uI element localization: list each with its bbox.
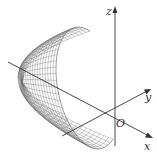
mesh-meridian bbox=[22, 82, 77, 136]
y-axis bbox=[62, 91, 147, 136]
z-axis-label: z bbox=[105, 5, 112, 18]
y-axis-label: y bbox=[144, 91, 152, 104]
z-axis-arrow-icon bbox=[113, 6, 118, 13]
x-axis-label: x bbox=[144, 140, 151, 153]
x-axis bbox=[8, 62, 149, 136]
surface-diagram: z y x O bbox=[0, 0, 157, 166]
x-axis-arrow-icon bbox=[145, 133, 153, 139]
mesh-meridian bbox=[22, 82, 105, 147]
origin-label: O bbox=[116, 117, 125, 130]
surface-mesh bbox=[18, 27, 113, 149]
